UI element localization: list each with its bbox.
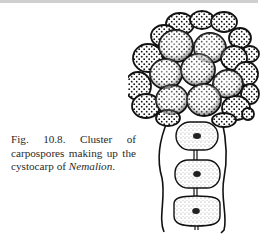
figure-caption: Fig. 10.8. Cluster of carpospores making… [11,133,136,174]
caption-period: . [112,160,115,172]
page-top-rule [0,0,258,3]
figure-number: Fig. 10.8. [11,133,66,145]
filament-cells [174,122,220,230]
cystocarp-illustration [128,8,268,240]
caption-genus-name: Nemalion [69,160,113,172]
